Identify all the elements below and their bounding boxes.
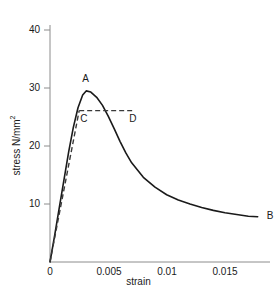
y-axis-title-text: stress N/mm — [11, 119, 22, 175]
y-axis-title-exponent: 2 — [9, 116, 16, 120]
annotation-label-b: B — [267, 211, 274, 221]
axes-group — [44, 25, 270, 262]
chart-canvas — [0, 0, 277, 294]
stress-strain-chart: 40 30 20 10 0 0.005 0.01 0.015 strain st… — [0, 0, 277, 294]
y-axis-title: stress N/mm2 — [11, 86, 22, 206]
x-axis-title: strain — [0, 276, 277, 287]
annotation-label-d: D — [129, 114, 136, 124]
y-tick-label-40: 40 — [14, 25, 40, 35]
annotation-label-c: C — [80, 114, 87, 124]
annotation-label-a: A — [82, 74, 89, 84]
